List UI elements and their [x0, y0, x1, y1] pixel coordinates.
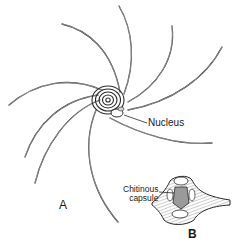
panel-a-label: A: [59, 199, 67, 211]
chitinous-capsule-label: Chitinous capsule: [123, 185, 158, 203]
capsule-cross-section: [152, 176, 230, 224]
capsule-label-line2: capsule: [123, 194, 158, 203]
nucleus-label: Nucleus: [148, 118, 184, 128]
spiral-organism-illustration: [0, 0, 232, 247]
nucleus-shape: [111, 107, 124, 117]
diagram-figure: Nucleus Chitinous capsule A B: [0, 0, 232, 247]
nucleus-leader-line: [124, 115, 147, 123]
panel-b-label: B: [188, 228, 197, 240]
